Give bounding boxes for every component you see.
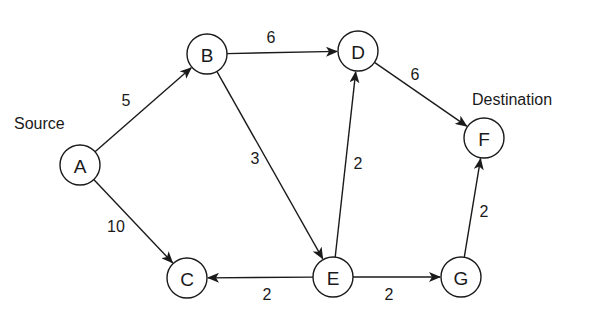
destination-label: Destination — [472, 91, 552, 108]
edge-weight-a-c: 10 — [107, 218, 125, 235]
node-b: B — [187, 34, 227, 74]
node-label: A — [74, 156, 87, 177]
node-c: C — [167, 258, 207, 298]
edge-weight-g-f: 2 — [480, 203, 489, 220]
nodes-layer: ABCDEFG — [60, 31, 504, 298]
edge-weight-a-b: 5 — [122, 92, 131, 109]
node-e: E — [313, 257, 353, 297]
node-label: B — [201, 45, 214, 66]
edge-a-to-b — [95, 68, 191, 152]
edges-layer — [94, 51, 481, 277]
node-label: C — [180, 269, 194, 290]
source-label: Source — [14, 115, 65, 132]
edge-weight-e-g: 2 — [385, 286, 394, 303]
node-label: E — [327, 268, 340, 289]
node-label: D — [351, 42, 365, 63]
edge-weight-e-d: 2 — [354, 155, 363, 172]
edge-b-to-d — [227, 51, 337, 53]
node-label: F — [478, 129, 490, 150]
edge-weight-e-c: 2 — [263, 286, 272, 303]
edge-e-to-c — [208, 277, 313, 278]
edge-d-to-f — [374, 62, 466, 126]
node-d: D — [338, 31, 378, 71]
node-g: G — [441, 257, 481, 297]
node-a: A — [60, 145, 100, 185]
graph-canvas: 5106326222 ABCDEFG SourceDestination — [0, 0, 592, 329]
edge-weights-layer: 5106326222 — [107, 29, 488, 303]
edge-weight-b-e: 3 — [251, 150, 260, 167]
node-label: G — [454, 268, 469, 289]
edge-a-to-c — [94, 180, 173, 263]
edge-g-to-f — [464, 159, 480, 258]
edge-b-to-e — [217, 71, 323, 258]
edge-weight-d-f: 6 — [411, 66, 420, 83]
node-f: F — [464, 118, 504, 158]
edge-weight-b-d: 6 — [267, 29, 276, 46]
